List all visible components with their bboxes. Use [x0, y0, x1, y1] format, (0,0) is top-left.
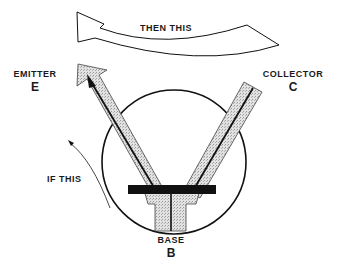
base-name: BASE [150, 236, 192, 245]
base-bar [128, 185, 216, 194]
diagram-graphics [0, 0, 338, 272]
collector-name: COLLECTOR [258, 70, 328, 79]
base-symbol: B [150, 247, 192, 259]
emitter-label: EMITTER E [8, 70, 62, 93]
curved-arrow-icon [77, 12, 279, 56]
collector-label: COLLECTOR C [258, 70, 328, 93]
emitter-symbol: E [8, 81, 62, 93]
transistor-diagram: THEN THIS EMITTER E COLLECTOR C IF THIS … [0, 0, 338, 272]
base-label: BASE B [150, 236, 192, 259]
collector-symbol: C [258, 81, 328, 93]
base-lead [144, 190, 200, 231]
emitter-name: EMITTER [8, 70, 62, 79]
if-this-label: IF THIS [47, 175, 82, 184]
then-this-label: THEN THIS [140, 24, 192, 33]
